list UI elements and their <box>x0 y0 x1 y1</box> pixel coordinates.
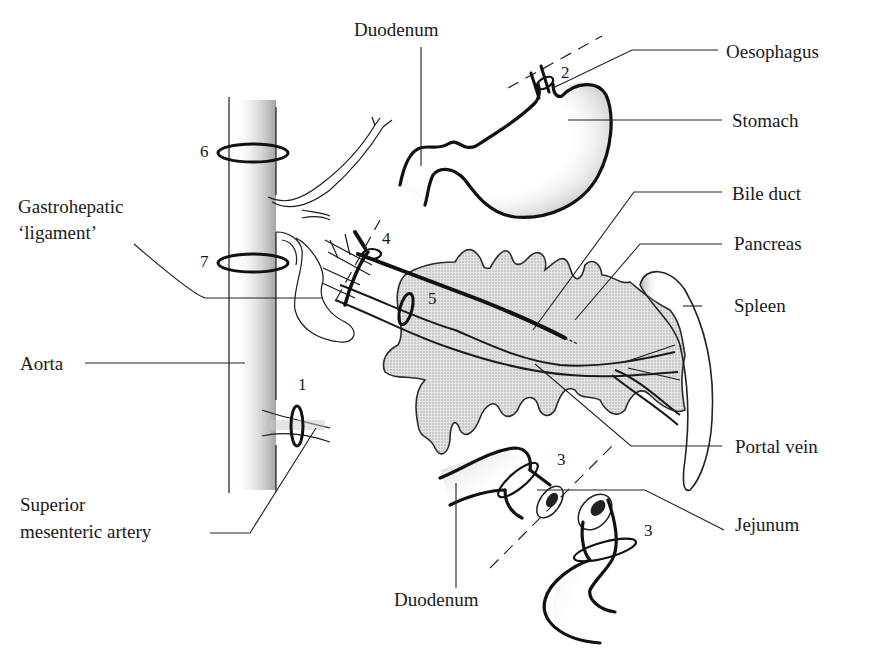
label-stomach: Stomach <box>732 110 799 131</box>
marker-4: 4 <box>382 229 391 248</box>
label-gastrohepatic-1: Gastrohepatic <box>18 196 124 217</box>
marker-3b: 3 <box>644 521 653 540</box>
label-gastrohepatic-2: ‘ligament’ <box>18 222 97 243</box>
label-oesophagus: Oesophagus <box>726 41 819 62</box>
marker-1: 1 <box>298 375 307 394</box>
duodenum-jejunum <box>440 448 638 643</box>
marker-2: 2 <box>561 63 570 82</box>
marker-6: 6 <box>200 142 209 161</box>
label-pancreas: Pancreas <box>734 233 802 254</box>
label-jejunum: Jejunum <box>735 514 800 535</box>
marker-3a: 3 <box>557 450 566 469</box>
label-spleen: Spleen <box>734 295 786 316</box>
label-duodenum-bottom: Duodenum <box>394 589 479 610</box>
anatomy-diagram: Duodenum Oesophagus Stomach Bile duct Ga… <box>0 0 874 660</box>
label-sma-1: Superior <box>20 494 86 515</box>
marker-7: 7 <box>200 252 209 271</box>
label-bile-duct: Bile duct <box>732 183 802 204</box>
marker-5: 5 <box>428 289 437 308</box>
label-sma-2: mesenteric artery <box>20 521 152 542</box>
stomach <box>400 83 612 218</box>
label-duodenum-top: Duodenum <box>354 19 439 40</box>
label-aorta: Aorta <box>20 353 64 374</box>
label-portal-vein: Portal vein <box>735 436 818 457</box>
